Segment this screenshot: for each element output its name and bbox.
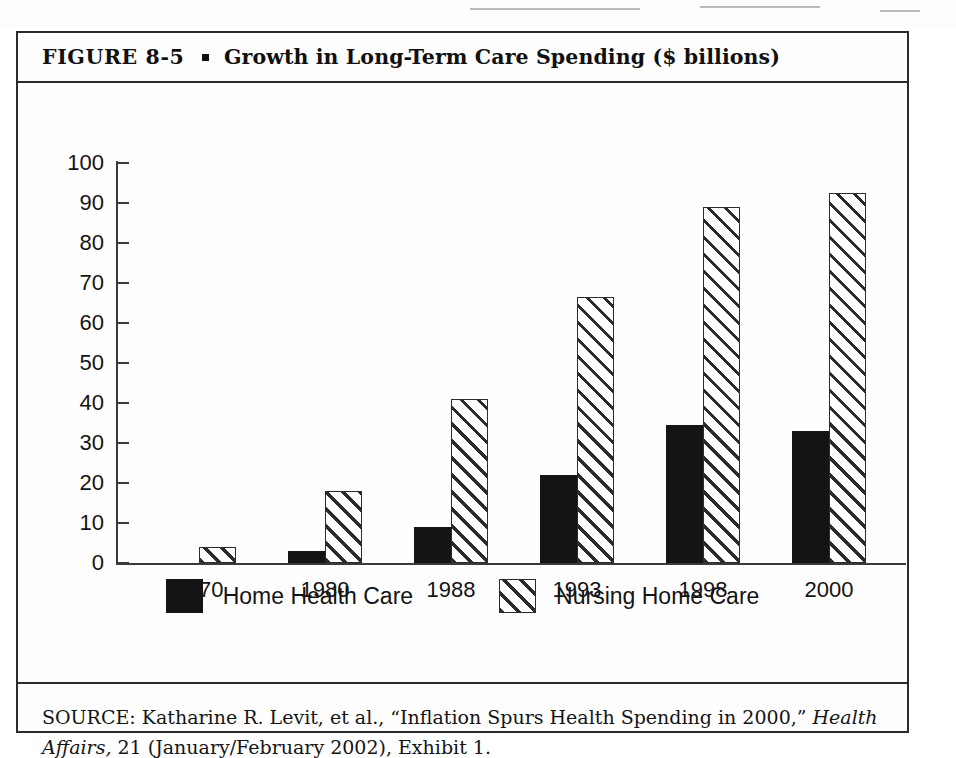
- y-axis-tick: 70: [116, 282, 117, 283]
- bar-group: 1980: [288, 163, 362, 563]
- y-axis-tick: 20: [116, 482, 117, 483]
- diagonal-hatch-swatch: [499, 579, 536, 613]
- source-note: SOURCE: Katharine R. Levit, et al., “Inf…: [42, 702, 886, 758]
- bar-nursing-home-care: [451, 399, 488, 563]
- legend-label: Nursing Home Care: [556, 583, 759, 610]
- y-tick-label: 20: [80, 470, 104, 496]
- legend-label: Home Health Care: [223, 583, 413, 610]
- x-axis-line: [116, 563, 906, 565]
- y-tick-label: 10: [80, 510, 104, 536]
- bar-group: 1988: [414, 163, 488, 563]
- source-suffix: 21 (January/February 2002), Exhibit 1.: [111, 736, 490, 758]
- bar-nursing-home-care: [577, 297, 614, 563]
- bar-nursing-home-care: [199, 547, 236, 563]
- y-axis-tick: 60: [116, 322, 117, 323]
- y-tick-label: 30: [80, 430, 104, 456]
- figure-number: FIGURE 8-5: [42, 45, 184, 69]
- y-axis-tick: 100: [116, 162, 117, 163]
- y-axis-tick: 80: [116, 242, 117, 243]
- y-tick-label: 40: [80, 390, 104, 416]
- y-tick-label: 50: [80, 350, 104, 376]
- bar-nursing-home-care: [325, 491, 362, 563]
- bar-group: 2000: [792, 163, 866, 563]
- y-tick-label: 0: [92, 550, 104, 576]
- bar-home-health-care: [540, 475, 577, 563]
- bar-home-health-care: [288, 551, 325, 563]
- scan-artifact-band: [0, 0, 956, 26]
- y-axis-tick: 40: [116, 402, 117, 403]
- y-axis-tick: 30: [116, 442, 117, 443]
- y-tick-label: 90: [80, 190, 104, 216]
- y-axis-tick: 0: [116, 562, 117, 563]
- bar-home-health-care: [666, 425, 703, 563]
- bar-group: 1970: [162, 163, 236, 563]
- plot-region: 1009080706050403020100 19701980198819931…: [116, 161, 906, 565]
- legend-item: Home Health Care: [166, 579, 413, 613]
- y-axis-tick: 90: [116, 202, 117, 203]
- page-title: FIGURE 8-5 Growth in Long-Term Care Spen…: [18, 45, 780, 69]
- bar-group: 1993: [540, 163, 614, 563]
- figure-container: FIGURE 8-5 Growth in Long-Term Care Spen…: [16, 31, 909, 733]
- chart-legend: Home Health CareNursing Home Care: [18, 579, 907, 613]
- bar-home-health-care: [414, 527, 451, 563]
- square-bullet-icon: [202, 54, 209, 61]
- y-axis-tick: 50: [116, 362, 117, 363]
- solid-black-swatch: [166, 579, 203, 613]
- y-axis-tick: 10: [116, 522, 117, 523]
- bar-groups: 197019801988199319982000: [118, 163, 906, 563]
- source-divider: [18, 682, 907, 684]
- source-prefix: SOURCE: Katharine R. Levit, et al., “Inf…: [42, 706, 813, 728]
- chart-area: 1009080706050403020100 19701980198819931…: [18, 83, 907, 632]
- legend-item: Nursing Home Care: [499, 579, 759, 613]
- bar-nursing-home-care: [703, 207, 740, 563]
- bar-home-health-care: [792, 431, 829, 563]
- bar-nursing-home-care: [829, 193, 866, 563]
- bar-group: 1998: [666, 163, 740, 563]
- figure-title-bar: FIGURE 8-5 Growth in Long-Term Care Spen…: [18, 33, 907, 83]
- y-tick-label: 60: [80, 310, 104, 336]
- y-tick-label: 80: [80, 230, 104, 256]
- figure-title-text: Growth in Long-Term Care Spending ($ bil…: [224, 45, 780, 69]
- y-tick-label: 70: [80, 270, 104, 296]
- y-tick-label: 100: [67, 150, 104, 176]
